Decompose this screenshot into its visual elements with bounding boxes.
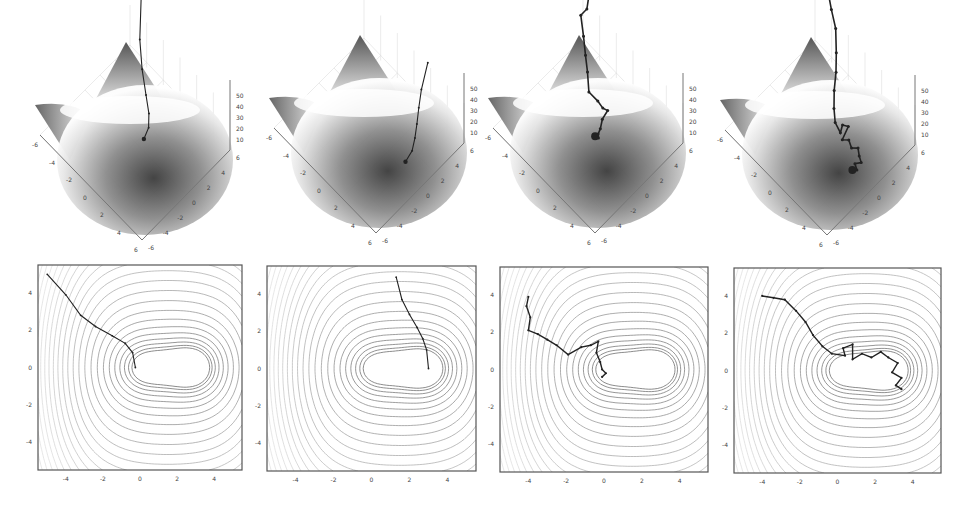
y-tick-label: -4 — [848, 224, 854, 231]
x-tick-label: -4 — [525, 477, 531, 484]
x-tick-label: 4 — [802, 224, 806, 231]
y-tick-label: 2 — [207, 184, 211, 191]
z-tick-label: 10 — [921, 131, 929, 138]
x-tick-label: 0 — [138, 475, 142, 482]
x-tick-label: 2 — [553, 204, 557, 211]
z-tick-label: 20 — [470, 118, 478, 125]
y-tick-label: -4 — [397, 222, 403, 229]
y-tick-label: 2 — [257, 327, 261, 334]
contour-lines — [38, 265, 242, 470]
y-tick-label: -6 — [601, 237, 607, 244]
y-tick-label: -2 — [255, 402, 261, 409]
trajectory-end-marker — [848, 166, 856, 174]
x-tick-label: -2 — [751, 171, 757, 178]
y-tick-label: -2 — [862, 209, 868, 216]
plot-frame — [267, 266, 476, 471]
y-tick-label: 4 — [28, 289, 32, 296]
y-tick-label: -2 — [488, 403, 494, 410]
z-tick-label: 30 — [921, 109, 929, 116]
x-tick-label: -6 — [717, 136, 723, 143]
z-tick-label: 10 — [236, 136, 244, 143]
x-tick-label: -6 — [485, 134, 491, 141]
y-tick-label: -4 — [616, 222, 622, 229]
x-tick-label: -4 — [63, 475, 69, 482]
contour-lines — [734, 268, 941, 473]
trajectory-end-marker — [591, 132, 599, 140]
x-tick-label: 4 — [351, 222, 355, 229]
y-tick-label: 4 — [257, 290, 261, 297]
x-tick-label: 0 — [536, 187, 540, 194]
z-tick-label: 50 — [470, 85, 478, 92]
z-tick-label: 10 — [470, 129, 478, 136]
z-tick-label: 20 — [236, 125, 244, 132]
x-tick-label: 4 — [911, 478, 915, 485]
z-tick-label: 40 — [470, 96, 478, 103]
z-tick-label: 50 — [236, 92, 244, 99]
y-tick-label: 0 — [426, 192, 430, 199]
y-tick-label: 0 — [192, 199, 196, 206]
x-tick-label: -2 — [797, 478, 803, 485]
x-tick-label: -4 — [293, 476, 299, 483]
y-tick-label: 0 — [877, 194, 881, 201]
x-tick-label: 4 — [117, 229, 121, 236]
x-tick-label: 6 — [134, 246, 138, 253]
y-tick-label: 0 — [490, 366, 494, 373]
z-tick-label: 40 — [921, 98, 929, 105]
x-tick-label: 2 — [640, 477, 644, 484]
z-tick-label: 10 — [689, 129, 697, 136]
z-tick-label: 50 — [689, 85, 697, 92]
x-tick-label: 6 — [819, 241, 823, 248]
x-tick-label: 2 — [100, 211, 104, 218]
trajectory-path — [396, 277, 428, 368]
y-tick-label: 4 — [674, 162, 678, 169]
x-tick-label: 0 — [83, 194, 87, 201]
x-tick-label: -6 — [32, 141, 38, 148]
y-tick-label: -4 — [163, 229, 169, 236]
z-tick-label: 50 — [921, 87, 929, 94]
plot-frame — [500, 267, 708, 472]
x-tick-label: -2 — [66, 176, 72, 183]
x-tick-label: -2 — [300, 169, 306, 176]
y-tick-label: -6 — [148, 244, 154, 251]
x-tick-label: -6 — [266, 134, 272, 141]
contour-plot-2: -4-2024420-2-4 — [255, 266, 476, 483]
x-tick-label: -4 — [759, 478, 765, 485]
x-tick-label: -4 — [49, 159, 55, 166]
y-tick-label: -4 — [26, 438, 32, 445]
trajectory-path — [47, 274, 135, 367]
z-tick-label: 20 — [689, 118, 697, 125]
y-tick-label: 6 — [470, 147, 474, 154]
z-tick-label: 30 — [689, 107, 697, 114]
y-tick-label: -2 — [177, 214, 183, 221]
y-tick-label: 6 — [236, 154, 240, 161]
surface-plot-4: -6-4-20246-6-4-202461020304050 — [717, 0, 929, 248]
x-tick-label: -4 — [283, 152, 289, 159]
y-tick-label: 2 — [892, 179, 896, 186]
x-tick-label: 2 — [175, 475, 179, 482]
y-tick-label: 0 — [28, 364, 32, 371]
plot-frame — [734, 268, 941, 473]
y-tick-label: 4 — [724, 292, 728, 299]
z-tick-label: 30 — [470, 107, 478, 114]
y-tick-label: -2 — [722, 404, 728, 411]
y-tick-label: 0 — [645, 192, 649, 199]
z-tick-label: 40 — [236, 103, 244, 110]
y-tick-label: -4 — [255, 439, 261, 446]
z-tick-label: 20 — [921, 120, 929, 127]
x-tick-label: 4 — [570, 222, 574, 229]
x-tick-label: -4 — [734, 154, 740, 161]
x-tick-label: 2 — [408, 476, 412, 483]
x-tick-label: 2 — [334, 204, 338, 211]
z-tick-label: 30 — [236, 114, 244, 121]
contour-plot-4: -4-2024420-2-4 — [722, 268, 941, 485]
y-tick-label: 6 — [689, 147, 693, 154]
figure-canvas: -4-2024420-2-4-4-2024420-2-4-4-2024420-2… — [0, 0, 977, 506]
trajectory-end-marker — [403, 160, 407, 164]
contour-lines — [267, 266, 476, 471]
y-tick-label: -2 — [411, 207, 417, 214]
x-tick-label: -2 — [563, 477, 569, 484]
y-tick-label: -4 — [722, 441, 728, 448]
x-tick-label: 6 — [587, 239, 591, 246]
x-tick-label: 4 — [678, 477, 682, 484]
x-tick-label: -2 — [100, 475, 106, 482]
